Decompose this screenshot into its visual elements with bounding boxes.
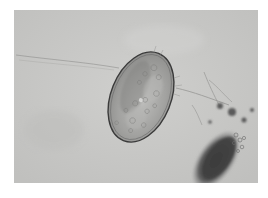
figure-caption bbox=[0, 186, 268, 196]
micrograph-image bbox=[14, 10, 258, 183]
